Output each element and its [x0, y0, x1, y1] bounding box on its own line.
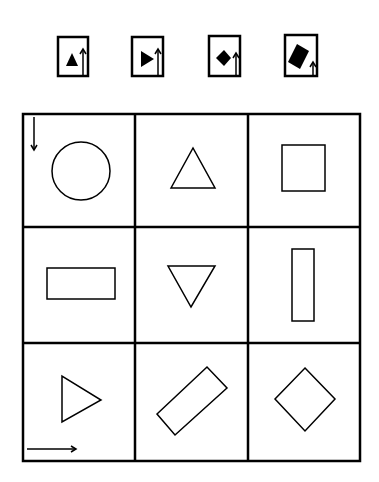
option-2[interactable] — [132, 37, 163, 76]
options-row — [0, 0, 379, 95]
option-4[interactable] — [285, 35, 317, 76]
cell-1-2-triangle-up-icon — [171, 148, 215, 188]
cell-2-2-triangle-down-icon — [168, 266, 215, 307]
puzzle-grid — [0, 95, 379, 482]
arrow-down-icon — [31, 117, 37, 150]
option-1[interactable] — [58, 37, 88, 76]
option-3[interactable] — [209, 36, 240, 76]
cell-2-3-vertical-rectangle-icon — [292, 249, 314, 321]
cell-1-3-square-icon — [282, 145, 325, 191]
grid-lines — [23, 114, 360, 461]
cell-1-1-circle-icon — [52, 142, 110, 200]
cell-2-1-horizontal-rectangle-icon — [47, 268, 115, 299]
cell-3-2-rotated-rectangle-icon — [157, 367, 227, 435]
grid-svg — [0, 95, 379, 482]
cell-3-3-diamond-icon — [275, 368, 335, 431]
arrow-right-icon — [27, 446, 76, 452]
options-svg — [0, 0, 379, 95]
cell-3-1-triangle-right-icon — [62, 376, 101, 422]
